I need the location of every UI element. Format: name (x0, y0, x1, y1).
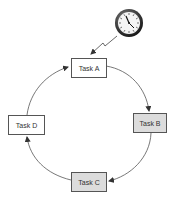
edge-b-to-c (109, 133, 151, 181)
lightning-connector (91, 36, 117, 54)
clock-icon (115, 9, 143, 37)
node-label: Task C (78, 179, 99, 186)
node-task-c: Task C (71, 172, 107, 192)
edge-a-to-b (106, 66, 149, 111)
cycle-diagram: Task A Task B Task C Task D (0, 0, 176, 200)
node-task-b: Task B (133, 113, 167, 133)
node-label: Task B (139, 120, 160, 127)
node-label: Task D (16, 122, 37, 129)
diagram-connectors (0, 0, 176, 200)
node-task-d: Task D (8, 115, 45, 135)
node-task-a: Task A (71, 58, 107, 78)
edge-d-to-a (27, 67, 68, 115)
edge-c-to-d (27, 137, 71, 180)
node-label: Task A (79, 65, 100, 72)
